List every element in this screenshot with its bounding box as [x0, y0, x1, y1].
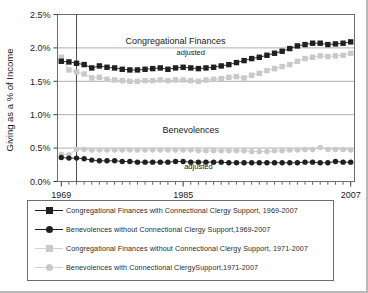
- data-point: [241, 58, 246, 63]
- data-point: [333, 159, 338, 164]
- data-point: [112, 147, 117, 152]
- data-point: [89, 157, 94, 162]
- data-point: [74, 147, 79, 152]
- legend-key-square-dark-icon: [32, 205, 66, 217]
- data-point: [97, 75, 102, 80]
- data-point: [264, 68, 269, 73]
- data-point: [348, 147, 353, 152]
- y-tick-label: 1.0%: [30, 110, 51, 120]
- data-point: [203, 148, 208, 153]
- data-point: [180, 147, 185, 152]
- data-point: [287, 62, 292, 67]
- data-point: [74, 155, 79, 160]
- data-point: [89, 147, 94, 152]
- data-point: [295, 43, 300, 48]
- data-point: [257, 71, 262, 76]
- data-point: [97, 158, 102, 163]
- legend-item[interactable]: Congregational Finances with Connectiona…: [28, 201, 333, 220]
- data-point: [287, 160, 292, 165]
- data-point: [173, 159, 178, 164]
- data-point: [97, 147, 102, 152]
- data-point: [234, 160, 239, 165]
- chart-legend: Congregational Finances with Connectiona…: [27, 200, 334, 281]
- figure-page: Giving as a % of Income 0.0%0.5%1.0%1.5%…: [0, 0, 368, 293]
- data-point: [165, 78, 170, 83]
- legend-item[interactable]: Benevolences with Connectional ClergySup…: [28, 258, 333, 277]
- data-point: [226, 160, 231, 165]
- data-point: [180, 77, 185, 82]
- data-point: [89, 65, 94, 70]
- data-point: [249, 56, 254, 61]
- data-point: [158, 147, 163, 152]
- legend-key-circle-light-icon: [32, 262, 66, 274]
- data-point: [165, 159, 170, 164]
- data-point: [348, 39, 353, 44]
- legend-item[interactable]: Benevolences without Connectional Clergy…: [28, 220, 333, 239]
- data-point: [257, 160, 262, 165]
- data-point: [104, 147, 109, 152]
- data-point: [211, 65, 216, 70]
- data-point: [173, 77, 178, 82]
- data-point: [333, 147, 338, 152]
- data-point: [97, 63, 102, 68]
- data-point: [135, 147, 140, 152]
- data-point: [127, 67, 132, 72]
- data-point: [150, 78, 155, 83]
- data-point: [203, 65, 208, 70]
- data-point: [127, 147, 132, 152]
- data-point: [295, 147, 300, 152]
- data-point: [310, 41, 315, 46]
- data-point: [188, 147, 193, 152]
- data-point: [272, 160, 277, 165]
- data-point: [234, 74, 239, 79]
- data-point: [127, 79, 132, 84]
- x-tick-label: 2007: [341, 190, 361, 200]
- data-point: [340, 53, 345, 58]
- data-point: [295, 160, 300, 165]
- data-point: [340, 147, 345, 152]
- data-point: [104, 77, 109, 82]
- data-point: [203, 77, 208, 82]
- legend-item[interactable]: Congregational Finances without Connecti…: [28, 239, 333, 258]
- data-point: [81, 147, 86, 152]
- legend-item-label: Congregational Finances with Connectiona…: [66, 206, 298, 215]
- data-point: [272, 51, 277, 56]
- y-axis-ticks: 0.0%0.5%1.0%1.5%2.0%2.5%: [30, 10, 58, 187]
- data-point: [325, 42, 330, 47]
- data-point: [310, 55, 315, 60]
- data-point: [333, 53, 338, 58]
- data-point: [120, 147, 125, 152]
- data-point: [120, 78, 125, 83]
- legend-key-circle-dark-icon: [32, 224, 66, 236]
- data-point: [226, 148, 231, 153]
- data-point: [241, 148, 246, 153]
- data-point: [112, 65, 117, 70]
- data-point: [188, 65, 193, 70]
- data-point: [180, 65, 185, 70]
- x-tick-label: 1985: [173, 190, 193, 200]
- data-point: [219, 159, 224, 164]
- data-point: [66, 67, 71, 72]
- data-point: [302, 42, 307, 47]
- data-point: [279, 148, 284, 153]
- data-point: [219, 148, 224, 153]
- data-point: [173, 65, 178, 70]
- data-point: [142, 67, 147, 72]
- data-point: [81, 71, 86, 76]
- data-point: [325, 54, 330, 59]
- data-point: [279, 49, 284, 54]
- data-point: [219, 76, 224, 81]
- data-point: [241, 75, 246, 80]
- data-point: [234, 60, 239, 65]
- data-point: [142, 159, 147, 164]
- data-point: [325, 147, 330, 152]
- data-point: [142, 78, 147, 83]
- data-point: [104, 65, 109, 70]
- y-tick-label: 0.5%: [30, 143, 51, 153]
- y-tick-label: 1.5%: [30, 77, 51, 87]
- legend-item-label: Congregational Finances without Connecti…: [66, 244, 308, 253]
- data-point: [165, 147, 170, 152]
- data-point: [211, 148, 216, 153]
- data-point: [302, 147, 307, 152]
- data-point: [318, 160, 323, 165]
